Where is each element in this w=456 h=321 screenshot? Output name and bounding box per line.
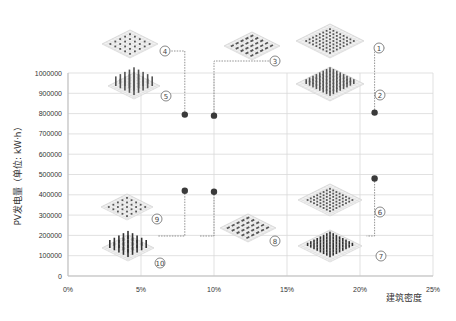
- annotation-number: 9: [155, 216, 159, 224]
- annotation-number: 8: [273, 238, 277, 246]
- annotation-number: 4: [163, 48, 168, 56]
- x-tick-label: 10%: [207, 286, 221, 293]
- annotation-number: 2: [378, 92, 382, 100]
- y-tick-labels: 0100000200000300000400000500000600000700…: [35, 70, 62, 280]
- x-tick-label: 20%: [353, 286, 367, 293]
- y-tick-label: 700000: [39, 130, 62, 137]
- y-tick-label: 900000: [39, 90, 62, 97]
- y-tick-label: 800000: [39, 110, 62, 117]
- leader-line: [200, 192, 214, 236]
- x-axis-title: 建筑密度: [386, 292, 422, 303]
- annotation-labels: 12345678910: [152, 43, 386, 268]
- leader-line: [171, 51, 185, 115]
- leader-line: [375, 48, 385, 113]
- y-tick-label: 600000: [39, 151, 62, 158]
- y-tick-label: 300000: [39, 212, 62, 219]
- layout-thumbnail-7: [298, 230, 362, 262]
- leader-line: [214, 61, 281, 116]
- x-tick-label: 0%: [63, 286, 73, 293]
- leader-lines: [158, 48, 385, 236]
- y-tick-label: 400000: [39, 191, 62, 198]
- annotation-number: 1: [377, 45, 381, 53]
- data-point: [211, 112, 217, 118]
- y-tick-label: 100000: [39, 252, 62, 259]
- layout-thumbnail-8: [220, 214, 276, 242]
- data-point: [371, 175, 377, 181]
- layout-thumbnail-4: [102, 30, 158, 58]
- y-tick-label: 0: [58, 273, 62, 280]
- data-points: [182, 109, 378, 195]
- x-tick-label: 5%: [136, 286, 146, 293]
- x-tick-label: 15%: [280, 286, 294, 293]
- layout-thumbnail-3: [224, 32, 280, 60]
- layout-thumbnail-6: [298, 184, 362, 216]
- annotation-number: 3: [273, 58, 277, 66]
- y-tick-label: 200000: [39, 232, 62, 239]
- data-point: [211, 189, 217, 195]
- x-tick-labels: 0%5%10%15%20%25%: [63, 286, 440, 293]
- data-point: [371, 109, 377, 115]
- layout-thumbnail-2: [296, 67, 364, 101]
- y-axis-title: PV发电量（单位: kW·h）: [12, 122, 23, 225]
- leader-line: [158, 191, 185, 236]
- x-tick-label: 25%: [426, 286, 440, 293]
- layout-thumbnail-5: [108, 67, 160, 99]
- layout-thumbnail-9: [101, 194, 153, 220]
- pv-chart: 0100000200000300000400000500000600000700…: [0, 0, 456, 321]
- data-point: [182, 111, 188, 117]
- annotation-number: 10: [156, 260, 165, 268]
- layout-thumbnail-1: [296, 24, 364, 58]
- y-tick-label: 1000000: [35, 70, 62, 77]
- annotation-number: 6: [378, 209, 383, 217]
- y-tick-label: 500000: [39, 171, 62, 178]
- leader-line: [367, 179, 375, 236]
- annotation-number: 7: [379, 253, 383, 261]
- annotation-number: 5: [164, 93, 168, 101]
- layout-thumbnails: [101, 24, 364, 262]
- data-point: [182, 188, 188, 194]
